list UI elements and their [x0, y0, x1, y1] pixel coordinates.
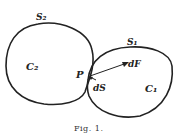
force-vector-df [90, 63, 127, 76]
label-ds: dS [93, 83, 106, 93]
label-s2: S₂ [36, 12, 46, 22]
figure-diagram: S₂ S₁ C₂ C₁ P dF dS Fig. 1. [0, 0, 178, 135]
label-p: P [75, 69, 84, 80]
figure-caption: Fig. 1. [74, 124, 103, 133]
label-c2: C₂ [26, 61, 39, 72]
label-s1: S₁ [127, 37, 137, 47]
surface-s1-outline [87, 47, 172, 117]
surface-s2-outline [6, 23, 93, 104]
label-c1: C₁ [145, 83, 157, 94]
label-df: dF [128, 59, 141, 69]
